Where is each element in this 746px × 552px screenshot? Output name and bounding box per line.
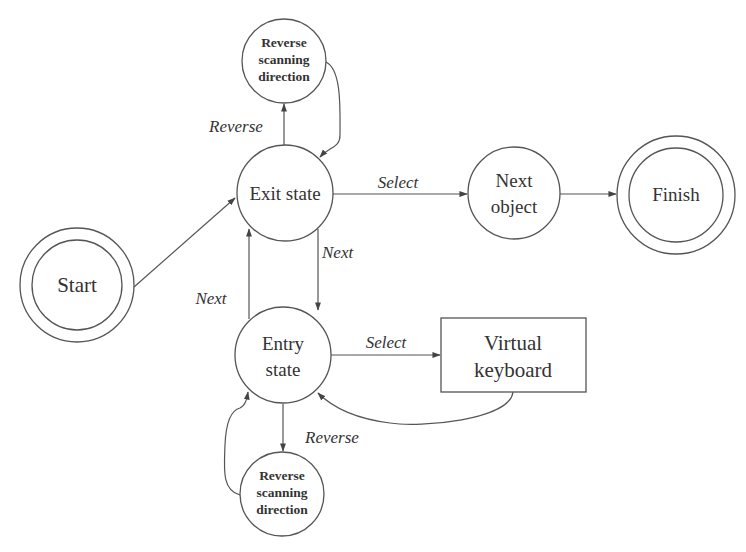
edge-start-to-exit	[134, 198, 235, 287]
node-label-reverse-bottom-line3: direction	[256, 502, 308, 517]
node-start: Start	[20, 228, 134, 342]
edge-label-next-right: Next	[321, 243, 354, 262]
node-label-virtual-keyboard-line1: Virtual	[484, 331, 542, 355]
node-label-next-object-line1: Next	[496, 170, 534, 191]
node-label-finish: Finish	[652, 184, 700, 205]
node-label-reverse-top-line3: direction	[258, 69, 310, 84]
node-label-reverse-top-line1: Reverse	[261, 35, 307, 50]
node-label-reverse-bottom-line1: Reverse	[259, 468, 305, 483]
edge-entry-reverse: Reverse	[283, 404, 359, 451]
node-exit-state: Exit state	[237, 145, 333, 241]
node-label-reverse-bottom-line2: scanning	[256, 485, 307, 500]
node-label-reverse-top-line2: scanning	[258, 52, 309, 67]
edge-keyboard-back	[318, 392, 513, 424]
node-label-entry-state-line1: Entry	[262, 333, 305, 354]
edge-exit-reverse: Reverse	[208, 104, 284, 145]
edge-label-next-left: Next	[194, 289, 227, 308]
edge-exit-next: Next	[318, 229, 354, 310]
edge-label-select-top: Select	[378, 173, 420, 192]
node-entry-state: Entry state	[235, 307, 331, 403]
node-label-next-object-line2: object	[491, 196, 538, 217]
edge-label-reverse-bottom: Reverse	[304, 428, 359, 447]
node-reverse-scanning-top: Reverse scanning direction	[242, 19, 326, 103]
node-finish: Finish	[617, 136, 735, 254]
node-virtual-keyboard: Virtual keyboard	[441, 318, 586, 392]
node-label-virtual-keyboard-line2: keyboard	[474, 358, 553, 382]
edge-label-reverse-top: Reverse	[208, 117, 263, 136]
node-label-entry-state-line2: state	[266, 359, 301, 380]
node-reverse-scanning-bottom: Reverse scanning direction	[240, 452, 324, 536]
node-label-start: Start	[57, 273, 97, 297]
node-next-object: Next object	[468, 147, 560, 239]
edge-entry-next: Next	[194, 229, 249, 319]
edge-label-select-bottom: Select	[366, 333, 408, 352]
edge-entry-select: Select	[331, 333, 440, 355]
edge-exit-select: Select	[333, 173, 467, 194]
state-diagram: Select Reverse Next Next Select Reverse …	[0, 0, 746, 552]
node-label-exit-state: Exit state	[249, 183, 320, 204]
